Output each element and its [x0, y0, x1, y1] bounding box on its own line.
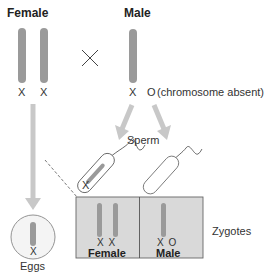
zygote-female-label: Female	[88, 248, 126, 259]
male-chromosome-absent-note: (chromosome absent)	[157, 87, 264, 98]
zygote-female-chromosome-1	[97, 203, 102, 237]
female-chromosome-2	[40, 28, 48, 83]
arrow-female-to-egg	[25, 104, 41, 210]
eggs-label: Eggs	[20, 261, 45, 272]
female-chromosomes	[18, 28, 48, 83]
fertilization-dashed-line	[45, 160, 77, 197]
female-chromosome-label-2: X	[40, 87, 47, 98]
male-chromosome-x	[129, 29, 137, 83]
sperm-o	[140, 146, 202, 196]
zygotes-label: Zygotes	[212, 226, 251, 237]
sperm-x-chromosome-label: X	[82, 180, 89, 191]
male-chromosome-label-x: X	[129, 87, 136, 98]
female-chromosome-label-1: X	[18, 87, 25, 98]
male-parent-title: Male	[124, 6, 151, 20]
zygote-male-chromosome	[161, 203, 166, 237]
egg-chromosome-label: X	[30, 247, 37, 257]
sperm-label: Sperm	[127, 135, 159, 146]
female-chromosome-1	[18, 28, 26, 83]
zygote-male-label: Male	[156, 248, 180, 259]
male-chromosome-label-o: O	[147, 87, 156, 98]
cross-icon	[82, 50, 98, 66]
zygote-female-chromosome-2	[113, 203, 118, 237]
female-parent-title: Female	[7, 6, 48, 20]
